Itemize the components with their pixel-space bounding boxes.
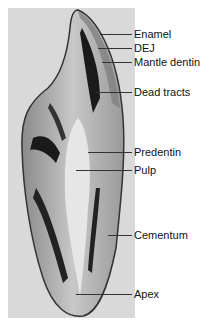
dej-leader <box>98 48 132 49</box>
mantle-dentin-label: Mantle dentin <box>134 56 200 68</box>
enamel-leader <box>100 34 132 35</box>
pulp-leader <box>76 170 132 171</box>
cementum-label: Cementum <box>134 229 188 241</box>
mantle-dentin-leader <box>102 62 132 63</box>
enamel-label: Enamel <box>134 28 171 40</box>
apex-label: Apex <box>134 288 159 300</box>
predentin-label: Predentin <box>134 146 181 158</box>
dej-label: DEJ <box>134 42 155 54</box>
cementum-leader <box>108 235 132 236</box>
dead-tracts-leader <box>96 92 132 93</box>
pulp-label: Pulp <box>134 164 156 176</box>
predentin-leader <box>88 152 132 153</box>
apex-leader <box>76 294 132 295</box>
tooth-section-photo <box>8 8 135 318</box>
dead-tracts-label: Dead tracts <box>134 86 190 98</box>
tooth-illustration <box>8 8 135 318</box>
